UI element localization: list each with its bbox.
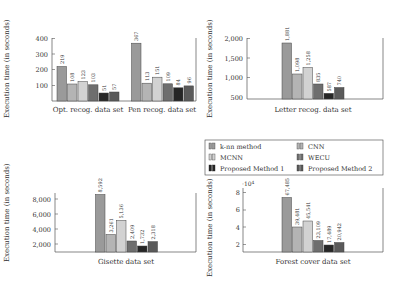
bar-cnn (142, 83, 152, 101)
bar-knn (282, 198, 292, 253)
x-category-label: Opt. recog. data set (53, 106, 124, 114)
y-axis-label: Execution time (in seconds) (3, 19, 11, 118)
y-tick: 4,000 (32, 226, 51, 234)
bar-pm2 (148, 242, 158, 252)
bar-value: 587 (326, 82, 332, 92)
bar-wecu (314, 84, 324, 99)
y-scale-label: ·104 (242, 180, 255, 188)
y-tick: 400 (36, 35, 48, 43)
bar-value: 109 (165, 72, 171, 82)
bar-pm1 (324, 93, 334, 99)
bar-knn (57, 67, 67, 102)
bar-mcnn (78, 82, 88, 101)
bar-wecu (127, 241, 137, 252)
bar-value: 45,541 (305, 202, 311, 220)
y-tick: 500 (231, 94, 243, 102)
bar-value: 835 (315, 72, 321, 82)
bar-value: 3,261 (108, 218, 114, 232)
bar-value: 151 (154, 65, 160, 75)
bar-wecu (314, 241, 324, 253)
legend-label: Proposed Method 2 (308, 165, 372, 173)
bar-value: 1,732 (139, 230, 145, 244)
panel-letter: Execution time (in seconds) 500 1,000 1,… (206, 19, 383, 118)
bar-value: 20,942 (336, 223, 342, 241)
panel-gisette: Execution time (in seconds) 2,000 4,000 … (3, 163, 196, 266)
x-category-label: Forest cover data set (275, 258, 350, 266)
legend: k-nn method CNN MCNN WECU Proposed Metho… (205, 140, 383, 175)
bar-pm2 (335, 243, 345, 253)
bar-value: 17,489 (326, 226, 332, 244)
bar-value: 367 (133, 31, 139, 41)
bar-pm1 (174, 88, 184, 101)
bar-wecu (163, 84, 173, 101)
bar-knn (132, 43, 142, 101)
bar-pm2 (110, 92, 120, 101)
bar-value: 1,258 (305, 51, 311, 65)
y-tick: 200 (36, 66, 48, 74)
bar-knn (96, 195, 106, 253)
bar-value: 8,592 (97, 178, 103, 192)
bar-value: 23,109 (315, 221, 321, 239)
y-tick: 100 (36, 82, 48, 90)
bar-value: 96 (186, 77, 192, 83)
panel-forest: Execution time (in seconds) ·104 2 4 6 8… (206, 178, 383, 277)
bar-mcnn (153, 77, 163, 101)
bar-value: 39,481 (294, 208, 300, 226)
y-tick: 4 (236, 224, 240, 232)
bar-value: 113 (144, 71, 150, 81)
legend-label: Proposed Method 1 (220, 165, 284, 173)
y-tick: 1,000 (224, 74, 243, 82)
y-tick: 6,000 (32, 211, 51, 219)
y-tick: 1,500 (224, 55, 243, 63)
bar-pm1 (138, 246, 148, 252)
bar-value: 84 (175, 79, 181, 85)
y-axis-label: Execution time (in seconds) (206, 178, 214, 277)
legend-label: WECU (308, 154, 330, 162)
legend-item-pm1: Proposed Method 1 (209, 165, 284, 173)
legend-label: k-nn method (220, 143, 261, 151)
bar-cnn (293, 227, 303, 252)
y-tick: 2 (236, 241, 240, 249)
bar-cnn (293, 74, 303, 99)
bar-knn (282, 43, 292, 99)
bar-value: 51 (101, 85, 107, 91)
bar-value: 740 (336, 76, 342, 86)
legend-item-pm2: Proposed Method 2 (297, 165, 372, 173)
bar-value: 2,318 (150, 225, 156, 239)
bar-pm1 (324, 245, 334, 252)
legend-label: CNN (308, 143, 325, 151)
bar-pm2 (335, 88, 345, 100)
x-category-label: Pen recog. data set (128, 106, 196, 114)
bar-mcnn (117, 221, 127, 253)
y-tick: 2,000 (224, 35, 243, 43)
bar-pm2 (184, 86, 194, 101)
y-axis-label: Execution time (in seconds) (3, 163, 11, 262)
bar-cnn (68, 84, 78, 101)
bar-value: 219 (59, 54, 65, 64)
bar-value: 103 (90, 73, 96, 83)
y-axis-label: Execution time (in seconds) (206, 19, 214, 118)
legend-label: MCNN (220, 154, 243, 162)
bar-value: 1,098 (294, 58, 300, 72)
bar-pm1 (99, 93, 109, 101)
x-category-label: Letter recog. data set (274, 106, 351, 114)
bar-value: 123 (80, 70, 86, 80)
bar-cnn (106, 235, 116, 253)
bar-mcnn (303, 68, 313, 100)
bar-mcnn (303, 221, 313, 252)
y-tick: 8 (236, 189, 240, 197)
y-tick: 8,000 (32, 196, 51, 204)
bar-value: 1,881 (284, 27, 290, 41)
bar-value: 5,136 (118, 204, 124, 218)
chart-canvas: Execution time (in seconds) 100 200 300 … (0, 0, 403, 287)
bar-value: 2,409 (129, 225, 135, 239)
bar-value: 108 (69, 72, 75, 82)
bar-value: 67,485 (284, 178, 290, 196)
bar-value: 57 (111, 84, 117, 90)
y-tick: 300 (36, 51, 48, 59)
x-category-label: Gisette data set (98, 258, 154, 266)
panel-opt-pen: Execution time (in seconds) 100 200 300 … (3, 19, 196, 118)
bar-wecu (89, 85, 99, 101)
y-tick: 6 (236, 206, 240, 214)
y-tick: 2,000 (32, 241, 51, 249)
